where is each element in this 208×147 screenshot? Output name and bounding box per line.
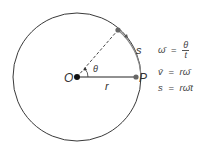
equation-velocity: v̄ = rω̄ xyxy=(158,67,190,77)
denominator: t xyxy=(182,51,189,60)
point-moved xyxy=(115,27,120,32)
label-angle: θ xyxy=(93,65,98,74)
eq-sign: = xyxy=(168,82,174,93)
label-point: P xyxy=(139,72,147,84)
eq-lhs: s xyxy=(158,82,163,93)
equation-omega: ω̄ = θ t xyxy=(158,41,189,60)
label-origin: O xyxy=(64,72,73,84)
fraction: θ t xyxy=(182,41,189,60)
label-radius: r xyxy=(105,81,109,92)
eq-rhs: rω̄t xyxy=(180,82,193,93)
eq-lhs: ω̄ xyxy=(158,44,165,55)
label-arc: s xyxy=(136,45,142,56)
point-p xyxy=(133,74,138,79)
eq-sign: = xyxy=(171,44,177,55)
equation-arc: s = rω̄t xyxy=(158,83,193,93)
eq-rhs: rω̄ xyxy=(180,66,191,77)
origin-point xyxy=(74,74,80,80)
eq-lhs: v̄ xyxy=(158,66,163,77)
eq-sign: = xyxy=(168,66,174,77)
